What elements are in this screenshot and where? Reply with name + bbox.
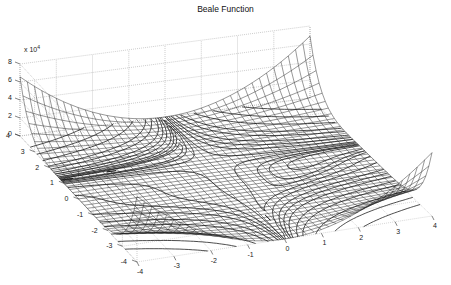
svg-text:4: 4 (433, 222, 437, 229)
svg-text:1: 1 (50, 179, 54, 186)
svg-text:3: 3 (396, 228, 400, 235)
svg-text:-3: -3 (174, 262, 180, 269)
svg-text:2: 2 (359, 234, 363, 241)
axes-grid (20, 26, 432, 262)
svg-text:-4: -4 (121, 258, 127, 265)
svg-text:0: 0 (8, 130, 12, 137)
svg-text:2: 2 (8, 112, 12, 119)
svg-text:-2: -2 (211, 257, 217, 264)
svg-text:-4: -4 (137, 268, 143, 275)
svg-text:6: 6 (8, 76, 12, 83)
svg-text:8: 8 (8, 58, 12, 65)
svg-text:-1: -1 (248, 251, 254, 258)
svg-text:3: 3 (21, 148, 25, 155)
svg-text:2: 2 (35, 164, 39, 171)
svg-text:1: 1 (322, 239, 326, 246)
svg-text:0: 0 (286, 245, 290, 252)
beale-surface-plot: -4-3-2-101234-4-3-2-10123402468 (0, 0, 451, 285)
svg-text:4: 4 (8, 94, 12, 101)
svg-text:-3: -3 (106, 242, 112, 249)
svg-text:-2: -2 (92, 227, 98, 234)
svg-text:-1: -1 (77, 211, 83, 218)
svg-text:0: 0 (65, 195, 69, 202)
